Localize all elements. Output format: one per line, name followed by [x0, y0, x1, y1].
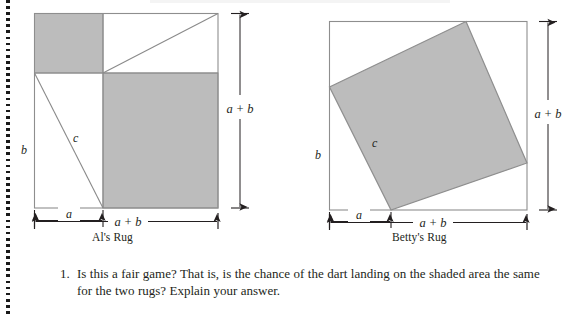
als-upper-hypotenuse	[103, 14, 218, 74]
als-lower-hypotenuse	[35, 73, 104, 208]
question-number: 1.	[60, 266, 77, 283]
caption-bettys-rug: Betty's Rug	[392, 231, 447, 243]
als-shaded-bottom-right-square	[103, 73, 218, 208]
bettys-tilted-square	[330, 22, 528, 211]
als-shaded-top-left-square	[35, 14, 104, 74]
figure-als-rug: c b a + b a a + b	[21, 14, 254, 232]
bettys-label-c: c	[372, 136, 378, 150]
als-label-b: b	[21, 143, 27, 157]
bettys-dim-right-label: a + b	[534, 107, 561, 121]
figures-canvas: c b a + b a a + b	[0, 0, 583, 258]
als-dim-bottom-label: a + b	[114, 215, 141, 229]
als-dim-right-label: a + b	[226, 102, 253, 116]
bettys-dim-bottom-label: a + b	[419, 216, 446, 230]
caption-als-rug: Al's Rug	[92, 231, 133, 243]
bettys-label-b: b	[315, 148, 321, 162]
question-text: Is this a fair game? That is, is the cha…	[77, 266, 549, 299]
als-label-c: c	[73, 131, 79, 145]
question-item: 1. Is this a fair game? That is, is the …	[60, 266, 560, 299]
figure-bettys-rug: c b a + b a a + b	[315, 22, 562, 233]
page-root: c b a + b a a + b	[0, 0, 583, 315]
als-dim-a-label: a	[66, 207, 72, 221]
bettys-dim-a-label: a	[356, 208, 362, 222]
